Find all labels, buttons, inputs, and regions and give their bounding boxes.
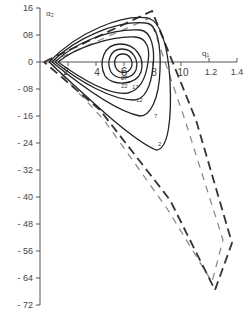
svg-text:- 24: - 24 — [17, 138, 33, 148]
contour-chart: 16 08 0 - 08 - 16 - 24 - 32 - 40 - 48 - … — [0, 0, 250, 319]
svg-text:- 48: - 48 — [17, 219, 33, 229]
svg-text:- 56: - 56 — [17, 246, 33, 256]
svg-text:0: 0 — [28, 57, 33, 67]
y-tick-labels: 16 08 0 - 08 - 16 - 24 - 32 - 40 - 48 - … — [17, 3, 33, 310]
x-axis-title: q₁ — [202, 49, 209, 58]
svg-text:- 08: - 08 — [17, 84, 33, 94]
svg-text:- 72: - 72 — [17, 300, 33, 310]
contour-lines — [49, 17, 170, 150]
svg-text:17: 17 — [132, 84, 139, 90]
svg-text:12: 12 — [136, 97, 143, 103]
svg-text:7: 7 — [154, 113, 158, 119]
x-axis — [40, 58, 237, 66]
svg-text:08: 08 — [23, 30, 33, 40]
svg-text:- 40: - 40 — [17, 192, 33, 202]
svg-text:1.4: 1.4 — [231, 67, 244, 77]
svg-text:4: 4 — [94, 67, 100, 78]
svg-text:16: 16 — [23, 3, 33, 13]
y-axis-title: α₂ — [46, 9, 54, 18]
svg-text:27: 27 — [121, 75, 128, 81]
svg-text:- 32: - 32 — [17, 165, 33, 175]
y-axis — [36, 8, 40, 305]
svg-text:- 64: - 64 — [17, 273, 33, 283]
svg-text:- 16: - 16 — [17, 111, 33, 121]
contour-labels: 27 22 17 12 7 2 — [121, 75, 162, 147]
svg-text:2: 2 — [158, 141, 162, 147]
svg-text:1.2: 1.2 — [205, 67, 218, 77]
svg-text:22: 22 — [121, 83, 128, 89]
